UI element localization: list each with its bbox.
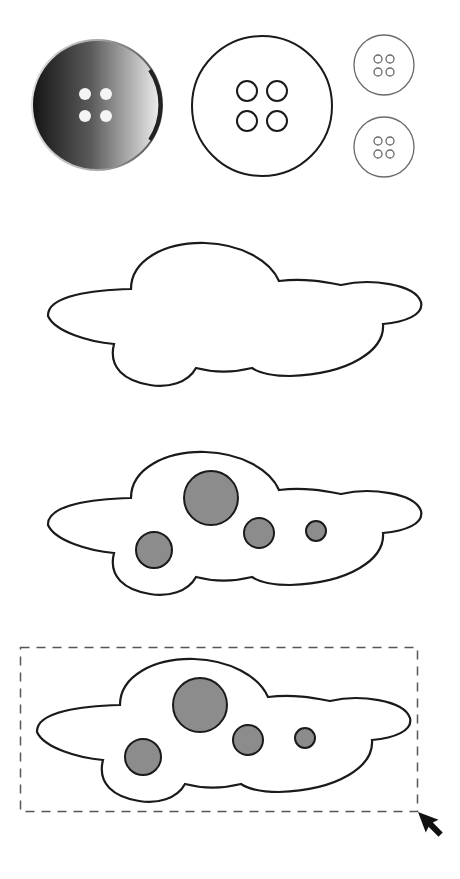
spotted-cloud — [48, 452, 421, 595]
selected-spotted-cloud[interactable] — [37, 659, 410, 802]
outline-button-large — [192, 36, 332, 176]
plain-cloud — [48, 243, 421, 386]
outline-button-small-top — [354, 35, 414, 95]
figure-canvas — [0, 0, 460, 879]
outline-button-small-bottom — [354, 117, 414, 177]
shaded-button — [31, 39, 163, 171]
